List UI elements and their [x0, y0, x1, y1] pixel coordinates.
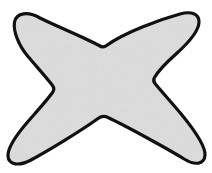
figure-canvas: [0, 0, 212, 173]
star-shape-svg: [0, 0, 212, 173]
